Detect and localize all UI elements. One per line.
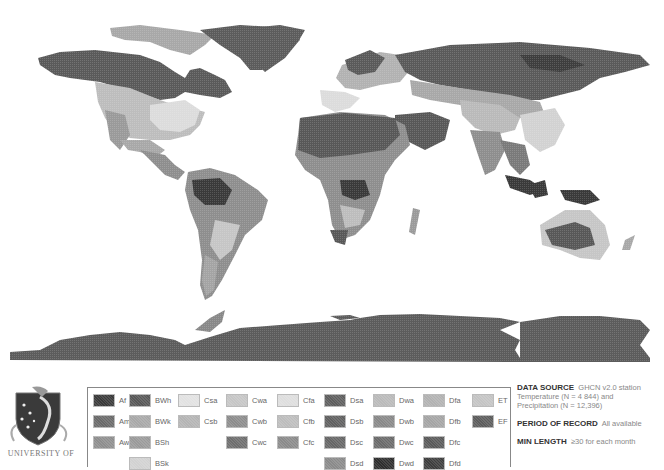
legend-item-dwd: Dwd (373, 456, 414, 470)
legend-item-am: Am (93, 414, 130, 428)
legend-label: EF (498, 417, 508, 426)
university-caption: UNIVERSITY OF (2, 449, 80, 458)
legend-swatch (129, 436, 151, 449)
legend-item-bsk: BSk (129, 456, 169, 470)
legend-swatch (324, 394, 346, 407)
data-source-block: DATA SOURCE GHCN v2.0 station Temperatur… (517, 383, 664, 410)
legend-label: Cfc (303, 438, 314, 447)
legend-item-dsa: Dsa (324, 393, 363, 407)
period-block: PERIOD OF RECORD All available (517, 419, 664, 428)
legend-swatch (226, 394, 248, 407)
legend-label: BWk (155, 417, 171, 426)
legend-swatch (324, 436, 346, 449)
legend-item-dsd: Dsd (324, 456, 363, 470)
min-length-value: ≥30 for each month (571, 437, 636, 446)
world-climate-map (0, 0, 664, 370)
legend-label: Dsd (350, 459, 363, 468)
climate-legend: AfAmAwBWhBWkBShBSkCsaCsbCwaCwbCwcCfaCfbC… (87, 387, 511, 467)
legend-swatch (93, 415, 115, 428)
legend-item-bwk: BWk (129, 414, 171, 428)
precipitation-count: Precipitation (N = 12,396) (517, 401, 602, 410)
legend-swatch (93, 436, 115, 449)
legend-swatch (472, 394, 494, 407)
min-length-label: MIN LENGTH (517, 437, 567, 446)
legend-label: Dfc (449, 438, 460, 447)
legend-item-ef: EF (472, 414, 508, 428)
legend-item-af: Af (93, 393, 126, 407)
legend-swatch (178, 394, 200, 407)
legend-label: Dfa (449, 396, 461, 405)
legend-swatch (373, 415, 395, 428)
legend-label: BSh (155, 438, 169, 447)
legend-label: Cfa (303, 396, 315, 405)
legend-item-dwb: Dwb (373, 414, 414, 428)
university-logo: UNIVERSITY OF (2, 385, 80, 462)
legend-item-aw: Aw (93, 435, 129, 449)
legend-swatch (324, 415, 346, 428)
legend-label: Af (119, 396, 126, 405)
legend-item-et: ET (472, 393, 508, 407)
legend-item-cfa: Cfa (277, 393, 315, 407)
temperature-count: Temperature (N = 4 844) and (517, 392, 614, 401)
legend-item-dfd: Dfd (423, 456, 461, 470)
legend-item-csa: Csa (178, 393, 217, 407)
legend-item-cwb: Cwb (226, 414, 267, 428)
legend-label: Dfb (449, 417, 461, 426)
legend-item-dfc: Dfc (423, 435, 460, 449)
legend-item-dfa: Dfa (423, 393, 461, 407)
legend-swatch (277, 436, 299, 449)
period-value: All available (602, 419, 642, 428)
legend-label: Csa (204, 396, 217, 405)
legend-swatch (324, 457, 346, 470)
legend-label: BWh (155, 396, 171, 405)
min-length-block: MIN LENGTH ≥30 for each month (517, 437, 664, 446)
university-crest-icon (2, 385, 80, 447)
legend-label: Dfd (449, 459, 461, 468)
legend-label: Dwb (399, 417, 414, 426)
legend-item-dwc: Dwc (373, 435, 414, 449)
legend-label: ET (498, 396, 508, 405)
legend-swatch (93, 394, 115, 407)
legend-item-cfb: Cfb (277, 414, 315, 428)
legend-label: Dwd (399, 459, 414, 468)
legend-item-dsc: Dsc (324, 435, 363, 449)
data-info-panel: DATA SOURCE GHCN v2.0 station Temperatur… (517, 383, 664, 455)
legend-swatch (373, 394, 395, 407)
legend-label: Dsa (350, 396, 363, 405)
legend-swatch (277, 394, 299, 407)
legend-item-cwc: Cwc (226, 435, 267, 449)
legend-swatch (423, 436, 445, 449)
legend-swatch (226, 436, 248, 449)
legend-item-bsh: BSh (129, 435, 169, 449)
legend-label: Cwc (252, 438, 267, 447)
legend-label: Dsc (350, 438, 363, 447)
legend-swatch (373, 436, 395, 449)
legend-label: Cfb (303, 417, 315, 426)
legend-label: BSk (155, 459, 169, 468)
legend-item-cwa: Cwa (226, 393, 267, 407)
legend-swatch (129, 415, 151, 428)
legend-swatch (277, 415, 299, 428)
legend-item-dwa: Dwa (373, 393, 414, 407)
legend-item-dfb: Dfb (423, 414, 461, 428)
legend-item-dsb: Dsb (324, 414, 363, 428)
legend-swatch (373, 457, 395, 470)
legend-label: Dsb (350, 417, 363, 426)
legend-label: Cwa (252, 396, 267, 405)
legend-swatch (178, 415, 200, 428)
legend-swatch (226, 415, 248, 428)
data-source-value: GHCN v2.0 station (578, 383, 641, 392)
legend-swatch (129, 394, 151, 407)
legend-item-csb: Csb (178, 414, 217, 428)
legend-swatch (423, 415, 445, 428)
legend-item-bwh: BWh (129, 393, 171, 407)
legend-swatch (472, 415, 494, 428)
data-source-label: DATA SOURCE (517, 383, 574, 392)
legend-swatch (423, 457, 445, 470)
legend-label: Cwb (252, 417, 267, 426)
legend-label: Csb (204, 417, 217, 426)
legend-label: Dwc (399, 438, 414, 447)
legend-label: Aw (119, 438, 129, 447)
legend-swatch (129, 457, 151, 470)
legend-label: Dwa (399, 396, 414, 405)
